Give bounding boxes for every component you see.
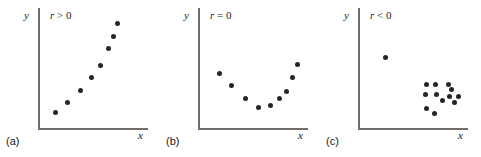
data-point <box>433 82 438 87</box>
data-point <box>424 106 429 111</box>
data-point <box>284 89 289 94</box>
data-point <box>456 94 461 99</box>
data-point <box>424 82 429 87</box>
data-point <box>452 100 457 105</box>
panel-c: y x r < 0 (c) <box>320 0 480 157</box>
annotation-relation-a: > 0 <box>54 9 71 21</box>
annotation-r-zero: r = 0 <box>210 10 232 21</box>
annotation-r-negative: r < 0 <box>370 10 392 21</box>
panel-b: y x r = 0 (b) <box>160 0 320 157</box>
data-point <box>268 103 273 108</box>
data-point <box>78 88 83 93</box>
panel-caption-c: (c) <box>326 136 339 147</box>
data-point <box>217 71 222 76</box>
x-axis-label-b: x <box>298 130 303 141</box>
x-axis-line-b <box>198 128 308 130</box>
plot-area-a: y x r > 0 <box>38 8 148 130</box>
y-axis-label-c: y <box>344 10 349 21</box>
y-axis-label-b: y <box>184 10 189 21</box>
data-point <box>53 110 58 115</box>
correlation-scatter-figure: y x r > 0 (a) y x r = 0 (b) y x r < 0 (c… <box>0 0 481 157</box>
data-point <box>229 83 234 88</box>
annotation-relation-b: = 0 <box>214 9 231 21</box>
x-axis-label-c: x <box>458 130 463 141</box>
data-point <box>440 98 445 103</box>
plot-area-b: y x r = 0 <box>198 8 308 130</box>
data-point <box>89 75 94 80</box>
y-axis-line-c <box>358 8 360 130</box>
data-point <box>106 46 111 51</box>
x-axis-line-a <box>38 128 148 130</box>
x-axis-line-c <box>358 128 468 130</box>
panel-caption-b: (b) <box>166 136 179 147</box>
annotation-r-positive: r > 0 <box>50 10 72 21</box>
data-point <box>449 87 454 92</box>
y-axis-line-b <box>198 8 200 130</box>
data-point <box>383 55 388 60</box>
y-axis-label-a: y <box>24 10 29 21</box>
data-point <box>111 34 116 39</box>
data-point <box>447 94 452 99</box>
panel-a: y x r > 0 (a) <box>0 0 160 157</box>
data-point <box>423 92 428 97</box>
data-point <box>434 92 439 97</box>
data-point <box>290 75 295 80</box>
data-point <box>295 62 300 67</box>
data-point <box>98 63 103 68</box>
data-point <box>277 96 282 101</box>
y-axis-line-a <box>38 8 40 130</box>
data-point <box>432 111 437 116</box>
data-point <box>243 96 248 101</box>
data-point <box>115 21 120 26</box>
x-axis-label-a: x <box>138 130 143 141</box>
annotation-relation-c: < 0 <box>374 9 391 21</box>
panel-caption-a: (a) <box>6 136 19 147</box>
data-point <box>65 100 70 105</box>
plot-area-c: y x r < 0 <box>358 8 468 130</box>
data-point <box>256 105 261 110</box>
